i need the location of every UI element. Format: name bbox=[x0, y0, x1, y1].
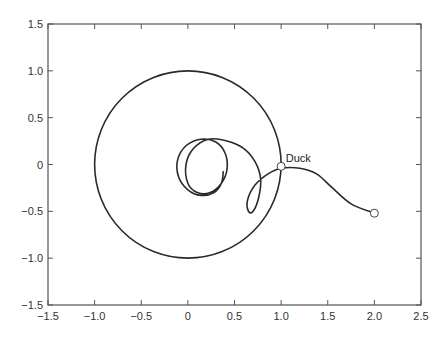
axis-ticks: −1.5−1.0−0.500.51.01.52.02.51.51.00.50−0… bbox=[21, 18, 428, 322]
x-tick-label: 1.5 bbox=[320, 310, 335, 322]
y-tick-label: −1.5 bbox=[21, 299, 43, 311]
x-tick-label: 2.0 bbox=[367, 310, 382, 322]
y-tick-label: 0.5 bbox=[28, 112, 43, 124]
x-tick-label: −1.5 bbox=[37, 310, 59, 322]
y-tick-label: −0.5 bbox=[21, 205, 43, 217]
x-tick-label: −1.0 bbox=[84, 310, 106, 322]
unit-circle bbox=[95, 71, 282, 258]
duck-annotation: Duck bbox=[286, 152, 312, 164]
x-tick-label: −0.5 bbox=[130, 310, 152, 322]
x-tick-label: 2.5 bbox=[413, 310, 428, 322]
chart-canvas: −1.5−1.0−0.500.51.01.52.02.51.51.00.50−0… bbox=[0, 0, 445, 337]
y-tick-label: 0 bbox=[37, 159, 43, 171]
end-marker bbox=[370, 209, 378, 217]
x-tick-label: 0 bbox=[185, 310, 191, 322]
axes-frame bbox=[48, 24, 421, 305]
y-tick-label: 1.0 bbox=[28, 65, 43, 77]
plot-series bbox=[95, 71, 375, 258]
plot-border bbox=[48, 24, 421, 305]
duck-marker bbox=[277, 162, 285, 170]
y-tick-label: −1.0 bbox=[21, 252, 43, 264]
duck-path bbox=[177, 139, 374, 213]
y-tick-label: 1.5 bbox=[28, 18, 43, 30]
x-tick-label: 0.5 bbox=[227, 310, 242, 322]
x-tick-label: 1.0 bbox=[273, 310, 288, 322]
